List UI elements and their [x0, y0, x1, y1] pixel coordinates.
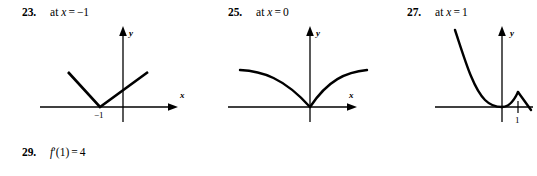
exercise-29-answer: 29. f′(1)=4	[22, 146, 242, 158]
exercise-27-prompt-value: 1	[462, 6, 468, 18]
y-axis-arrowhead	[119, 26, 127, 36]
exercise-25-number: 25.	[228, 6, 242, 18]
answer-key-page: 23. at x=−1 x y −1 25. at	[0, 0, 537, 176]
x-axis-label: x	[179, 90, 185, 100]
exercise-23-prompt: 23. at x=−1	[22, 6, 197, 18]
exercise-29-value: 4	[80, 146, 86, 158]
exercise-item-25: 25. at x=0	[228, 6, 396, 18]
exercise-23-prompt-op: =	[66, 6, 77, 18]
y-axis-label: y	[128, 28, 134, 38]
y-axis-label: y	[509, 28, 515, 38]
exercise-23-prompt-value: −1	[77, 6, 89, 18]
exercise-27-prompt-op: =	[451, 6, 462, 18]
x-axis-arrowhead	[347, 103, 357, 111]
exercise-item-23: 23. at x=−1	[22, 6, 197, 18]
exercise-27-graph: y 1	[415, 22, 537, 127]
absolute-value-curve	[68, 72, 148, 107]
exercise-23-graph: x y −1	[28, 22, 188, 127]
exercise-25-prompt-prefix: at	[256, 6, 264, 18]
exercise-29-text: f′(1)=4	[50, 146, 85, 158]
exercise-23-text: at x=−1	[50, 6, 89, 18]
exercise-25-graph: x y	[222, 22, 372, 127]
x-axis-label: x	[348, 90, 354, 100]
exercise-27-prompt: 27. at x=1	[407, 6, 537, 18]
exercise-27-number: 27.	[407, 6, 421, 18]
exercise-29-argument: (1)	[56, 146, 69, 158]
exercise-25-prompt-value: 0	[283, 6, 289, 18]
exercise-item-27: 27. at x=1	[407, 6, 537, 18]
exercise-25-prompt-op: =	[272, 6, 283, 18]
y-axis-label: y	[315, 28, 321, 38]
exercise-29-number: 29.	[22, 146, 36, 158]
y-axis-arrowhead	[306, 26, 314, 36]
exercise-27-graph-svg: y 1	[415, 22, 537, 127]
exercise-25-graph-svg: x y	[222, 22, 372, 127]
exercise-23-number: 23.	[22, 6, 36, 18]
exercise-23-graph-svg: x y −1	[28, 22, 188, 127]
rising-arc	[502, 92, 518, 107]
exercise-23-prompt-prefix: at	[50, 6, 58, 18]
descending-curve	[455, 30, 502, 107]
tick-label-one: 1	[515, 115, 520, 125]
exercise-item-29: 29. f′(1)=4	[22, 146, 242, 158]
tick-label-neg-one: −1	[94, 110, 104, 120]
exercise-25-prompt: 25. at x=0	[228, 6, 396, 18]
cusp-curve-right-branch	[310, 70, 367, 107]
exercise-27-prompt-prefix: at	[435, 6, 443, 18]
x-axis-arrowhead	[168, 103, 178, 111]
exercise-29-op: =	[69, 146, 80, 158]
exercise-27-text: at x=1	[435, 6, 468, 18]
y-axis-arrowhead	[498, 26, 506, 36]
exercise-25-text: at x=0	[256, 6, 289, 18]
cusp-curve-left-branch	[240, 70, 310, 107]
